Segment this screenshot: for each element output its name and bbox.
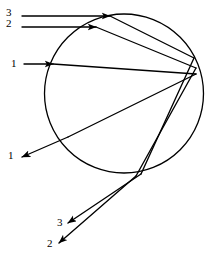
ray-segment-ray-3-internal-reflection <box>141 58 194 174</box>
rays-group <box>22 16 196 243</box>
ray-segment-ray-2-internal-reflection <box>136 68 196 176</box>
label-outgoing-ray-3: 3 <box>57 217 63 228</box>
label-incoming-ray-1: 1 <box>11 58 17 69</box>
ray-segment-ray-2-chord-to-far-side <box>96 27 196 68</box>
ray-diagram-canvas <box>0 0 209 262</box>
ray-segment-ray-2-outgoing <box>59 176 136 243</box>
ray-segment-ray-3-chord-to-far-side <box>110 16 194 58</box>
ray-segment-ray-1-chord-to-far-side <box>53 64 196 74</box>
ray-segment-ray-1-internal-reflection <box>68 74 196 137</box>
label-outgoing-ray-1: 1 <box>8 150 14 161</box>
label-incoming-ray-2: 2 <box>6 18 12 29</box>
ray-diagram-figure: 3 2 1 1 3 2 <box>0 0 209 262</box>
label-outgoing-ray-2: 2 <box>47 238 53 249</box>
ray-segment-ray-1-outgoing <box>22 137 68 157</box>
